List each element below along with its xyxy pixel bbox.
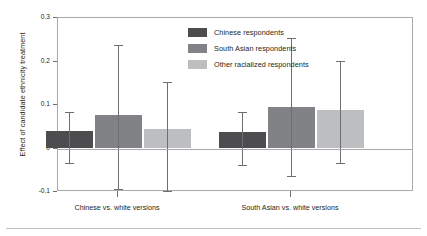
- error-bar-line: [242, 112, 243, 165]
- error-bar-line: [69, 112, 70, 163]
- x-axis-group-label: South Asian vs. white versions: [200, 203, 380, 212]
- error-bar-cap-lower: [336, 163, 345, 164]
- legend: Chinese respondentsSouth Asian responden…: [188, 25, 309, 73]
- error-bar-cap-lower: [65, 163, 74, 164]
- error-bar-cap-lower: [163, 191, 172, 192]
- y-axis-tick-label: 0.1: [21, 100, 50, 107]
- y-axis-tick: [53, 148, 57, 149]
- y-axis-tick: [53, 191, 57, 192]
- error-bar-cap-lower: [238, 165, 247, 166]
- error-bar-cap-lower: [287, 176, 296, 177]
- x-axis-group-tick: [117, 191, 118, 197]
- y-axis-title: Effect of candidate ethnicity treatment: [18, 5, 27, 185]
- legend-item-label: Other racialized respondents: [214, 60, 309, 69]
- y-axis-tick-label: -0.1: [21, 187, 50, 194]
- x-axis-group-label: Chinese vs. white versions: [27, 203, 207, 212]
- legend-color-swatch: [188, 28, 207, 37]
- y-axis-tick: [53, 61, 57, 62]
- error-bar-line: [167, 82, 168, 190]
- error-bar-cap-upper: [163, 82, 172, 83]
- bar-chart-figure: Effect of candidate ethnicity treatment …: [0, 0, 427, 236]
- x-axis-group-tick: [290, 191, 291, 197]
- legend-item: Other racialized respondents: [188, 57, 309, 71]
- legend-item: Chinese respondents: [188, 25, 309, 39]
- zero-reference-line: [58, 149, 412, 150]
- error-bar-cap-lower: [114, 189, 123, 190]
- bottom-divider: [6, 228, 421, 229]
- error-bar-cap-upper: [238, 112, 247, 113]
- error-bar-cap-upper: [65, 112, 74, 113]
- y-axis-tick-label: 0.3: [21, 13, 50, 20]
- y-axis-tick-label: 0.2: [21, 57, 50, 64]
- legend-item: South Asian respondents: [188, 41, 309, 55]
- legend-color-swatch: [188, 60, 207, 69]
- error-bar-line: [118, 45, 119, 188]
- legend-item-label: South Asian respondents: [214, 44, 296, 53]
- y-axis-tick: [53, 17, 57, 18]
- legend-item-label: Chinese respondents: [214, 28, 284, 37]
- error-bar-cap-upper: [114, 45, 123, 46]
- error-bar-cap-upper: [336, 61, 345, 62]
- legend-color-swatch: [188, 44, 207, 53]
- y-axis-tick: [53, 104, 57, 105]
